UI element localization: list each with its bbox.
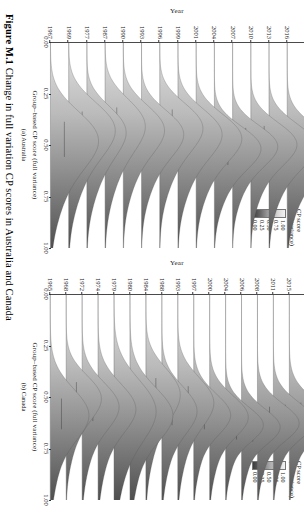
x-tick-label: 0.00 bbox=[43, 36, 50, 47]
y-tick-label: 2004 bbox=[211, 26, 218, 39]
x-tick-label: 0.50 bbox=[43, 391, 50, 402]
y-tick-label: 2008 bbox=[254, 278, 261, 291]
panels-container: CP score (full variance) 1.00 0.75 0.50 … bbox=[21, 0, 308, 506]
plot-canvas-canada bbox=[49, 294, 304, 500]
y-tick-label: 1988 bbox=[159, 278, 166, 291]
y-tick-label: 1997 bbox=[190, 278, 197, 291]
x-tick-label: 1.00 bbox=[43, 494, 50, 505]
x-tick-label: 0.75 bbox=[43, 191, 50, 202]
rotated-figure-wrapper: CP score (full variance) 1.00 0.75 0.50 … bbox=[0, 0, 308, 506]
x-tick-label: 0.25 bbox=[43, 340, 50, 351]
x-axis-australia: 0.000.250.500.751.00 bbox=[40, 42, 49, 248]
y-tick-label: 2010 bbox=[248, 26, 255, 39]
y-tick-label: 1972 bbox=[79, 278, 86, 291]
plot-canvas-australia bbox=[49, 42, 304, 248]
y-tick-label: 2004 bbox=[222, 278, 229, 291]
figure-caption: Figure M.1 Change in full variation CP s… bbox=[0, 0, 21, 506]
y-tick-label: 2001 bbox=[193, 26, 200, 39]
y-tick-label: 2015 bbox=[286, 278, 293, 291]
x-tick-label: 0.50 bbox=[43, 139, 50, 150]
y-tick-label: 1984 bbox=[143, 278, 150, 291]
ridgeline-svg-canada bbox=[49, 295, 304, 500]
x-tick-label: 1.00 bbox=[43, 242, 50, 253]
x-axis-title-canada: Group–based CP score (full variance) bbox=[31, 294, 39, 500]
panel-label-canada: (b) Canada bbox=[21, 294, 28, 500]
figure-caption-text: Change in full variation CP scores in Au… bbox=[4, 68, 15, 321]
y-ticks-canada: 2015201120082006200420001997199319881984… bbox=[49, 268, 304, 294]
panel-australia: CP score (full variance) 1.00 0.75 0.50 … bbox=[21, 6, 304, 248]
y-tick-label: 1979 bbox=[111, 278, 118, 291]
x-tick-label: 0.00 bbox=[43, 288, 50, 299]
y-tick-label: 1990 bbox=[120, 26, 127, 39]
y-axis-title-canada: Year bbox=[49, 258, 304, 268]
y-tick-label: 1993 bbox=[138, 26, 145, 39]
y-tick-label: 1980 bbox=[127, 278, 134, 291]
y-tick-label: 1968 bbox=[63, 278, 70, 291]
y-tick-label: 1974 bbox=[95, 278, 102, 291]
ridgeline-svg-australia bbox=[49, 43, 304, 248]
y-tick-label: 2016 bbox=[284, 26, 291, 39]
y-ticks-australia: 2016201320102007200420011999199619931990… bbox=[49, 16, 304, 42]
y-tick-label: 2006 bbox=[238, 278, 245, 291]
y-axis-title-australia: Year bbox=[49, 6, 304, 16]
plot-area-australia: Year 20162013201020072004200119991996199… bbox=[49, 6, 304, 248]
x-axis-title-australia: Group–based CP score (full variance) bbox=[31, 42, 39, 248]
plot-area-canada: Year 20152011200820062004200019971993198… bbox=[49, 258, 304, 500]
x-tick-label: 0.75 bbox=[43, 443, 50, 454]
y-tick-label: 1969 bbox=[65, 26, 72, 39]
x-axis-canada: 0.000.250.500.751.00 bbox=[40, 294, 49, 500]
density-curve bbox=[50, 43, 98, 248]
panel-label-australia: (a) Australia bbox=[21, 42, 28, 248]
y-tick-label: 2000 bbox=[206, 278, 213, 291]
x-tick-label: 0.25 bbox=[43, 88, 50, 99]
figure-number: Figure M.1 bbox=[4, 14, 15, 65]
y-tick-label: 1999 bbox=[175, 26, 182, 39]
y-tick-label: 1996 bbox=[157, 26, 164, 39]
y-tick-label: 1987 bbox=[102, 26, 109, 39]
y-tick-label: 2011 bbox=[270, 278, 277, 291]
y-tick-label: 1993 bbox=[175, 278, 182, 291]
y-tick-label: 2013 bbox=[266, 26, 273, 39]
panel-canada: CP score (full variance) 1.00 0.75 0.50 … bbox=[21, 258, 304, 500]
y-tick-label: 2007 bbox=[229, 26, 236, 39]
y-tick-label: 1977 bbox=[84, 26, 91, 39]
figure: CP score (full variance) 1.00 0.75 0.50 … bbox=[0, 0, 308, 506]
